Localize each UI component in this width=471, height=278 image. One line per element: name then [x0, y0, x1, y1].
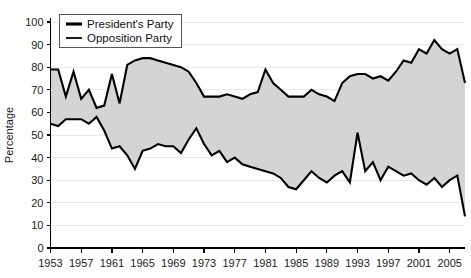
x-tick-label-1985: 1985: [284, 257, 308, 269]
y-tick-label-80: 80: [31, 61, 43, 73]
x-tick-label-1989: 1989: [315, 257, 339, 269]
x-tick-label-1957: 1957: [69, 257, 93, 269]
y-axis-title: Percentage: [3, 107, 15, 163]
x-tick-label-1961: 1961: [100, 257, 124, 269]
y-tick-label-70: 70: [31, 84, 43, 96]
y-tick-label-90: 90: [31, 39, 43, 51]
presidential-support-area-chart: 0102030405060708090100 19531957196119651…: [0, 0, 471, 278]
x-tick-label-1973: 1973: [192, 257, 216, 269]
x-tick-label-2001: 2001: [407, 257, 431, 269]
x-tick-label-1953: 1953: [38, 257, 62, 269]
x-tick-label-1977: 1977: [222, 257, 246, 269]
legend-label-presidents-party: President's Party: [87, 18, 174, 30]
legend-label-opposition-party: Opposition Party: [87, 32, 172, 44]
legend: President's Party Opposition Party: [59, 14, 181, 47]
x-tick-label-1997: 1997: [376, 257, 400, 269]
y-tick-label-30: 30: [31, 174, 43, 186]
x-tick-label-1981: 1981: [253, 257, 277, 269]
chart-container: 0102030405060708090100 19531957196119651…: [0, 0, 471, 278]
x-tick-label-1969: 1969: [161, 257, 185, 269]
y-tick-label-0: 0: [37, 242, 43, 254]
y-tick-label-50: 50: [31, 129, 43, 141]
x-tick-label-1965: 1965: [130, 257, 154, 269]
y-tick-label-100: 100: [25, 16, 43, 28]
y-tick-label-10: 10: [31, 219, 43, 231]
y-tick-label-20: 20: [31, 197, 43, 209]
y-tick-label-60: 60: [31, 106, 43, 118]
y-tick-label-40: 40: [31, 152, 43, 164]
x-tick-label-1993: 1993: [345, 257, 369, 269]
x-tick-label-2005: 2005: [437, 257, 461, 269]
